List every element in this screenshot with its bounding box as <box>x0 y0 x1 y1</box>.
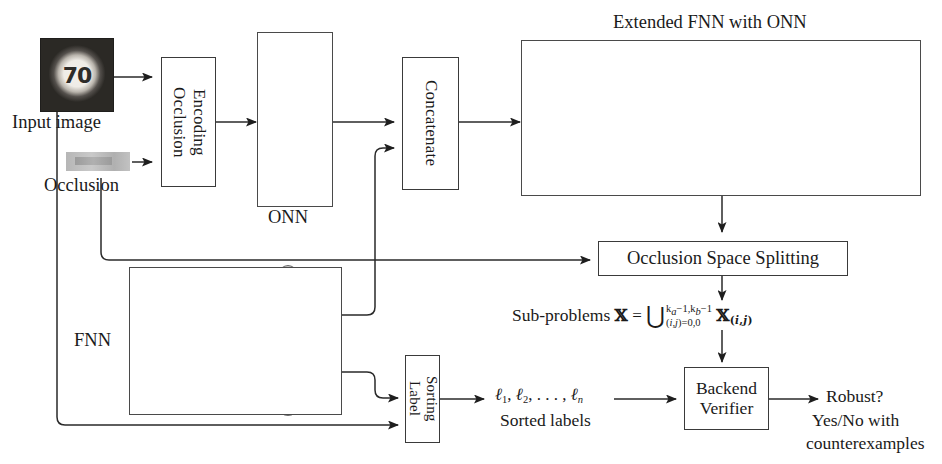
occlusion-space-splitting-box[interactable]: Occlusion Space Splitting <box>598 241 848 276</box>
encoding-occlusion-label: Encoding Occlusion <box>169 87 209 158</box>
concatenate-label: Concatenate <box>421 80 441 166</box>
sorting-label-text: Sorting Label <box>406 376 440 422</box>
robust-output-line1: Robust? <box>826 387 883 406</box>
occlusion-patch <box>66 152 130 171</box>
sorted-labels-caption: Sorted labels <box>500 411 591 430</box>
subproblems-lhs-symbol: 𝕏 <box>614 305 628 325</box>
backend-verifier-box[interactable]: Backend Verifier <box>684 367 769 430</box>
union-lower-limit: (i,j)=0,0 <box>666 317 701 328</box>
subproblems-formula: Sub-problems 𝕏 = ⋃ka−1,kb−1(i,j)=0,0 𝕏(i… <box>512 300 753 329</box>
input-image-thumbnail: 70 <box>40 38 114 112</box>
extended-fnn-box[interactable] <box>521 40 921 196</box>
subproblems-equals: = <box>632 306 642 325</box>
union-upper-limit: ka−1,kb−1 <box>666 303 712 314</box>
encoding-occlusion-box[interactable]: Encoding Occlusion <box>161 57 216 187</box>
robust-output-line2: Yes/No with <box>812 411 899 430</box>
backend-verifier-line2: Verifier <box>700 399 753 419</box>
fnn-network-box[interactable] <box>129 267 342 415</box>
diagram-canvas: 70 Input image Occlusion Encoding Occlus… <box>0 0 942 464</box>
sorted-labels-sequence: ℓ1, ℓ2, . . . , ℓn <box>495 386 583 405</box>
input-image-label: Input image <box>12 113 101 133</box>
subproblems-prefix-label: Sub-problems <box>512 305 610 325</box>
occlusion-space-splitting-label: Occlusion Space Splitting <box>627 248 819 269</box>
occlusion-label: Occlusion <box>44 176 119 196</box>
sorting-label-box[interactable]: Sorting Label <box>405 355 440 443</box>
union-operator: ⋃ <box>646 303 665 328</box>
input-image-digits: 70 <box>41 63 113 88</box>
robust-output-line3: counterexamples <box>806 434 925 453</box>
fnn-label: FNN <box>74 331 111 351</box>
union-limits: ka−1,kb−1(i,j)=0,0 <box>666 304 712 328</box>
extended-fnn-title: Extended FNN with ONN <box>613 13 807 33</box>
onn-network-box[interactable] <box>257 32 333 207</box>
concatenate-box[interactable]: Concatenate <box>402 57 459 190</box>
backend-verifier-line1: Backend <box>696 379 757 399</box>
onn-label: ONN <box>268 208 308 228</box>
subproblems-rhs-symbol: 𝕏(i,j) <box>716 305 752 325</box>
